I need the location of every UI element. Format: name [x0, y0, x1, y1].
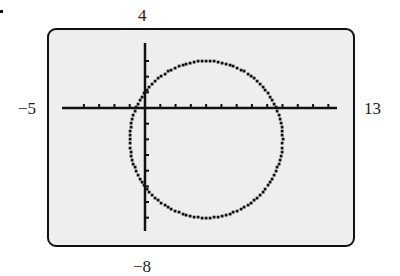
- circle-curve: [129, 60, 285, 220]
- axes: [62, 43, 337, 231]
